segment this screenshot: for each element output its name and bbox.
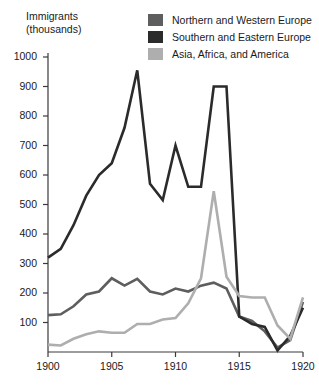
x-tick-label: 1915: [219, 360, 259, 372]
series-line-0: [48, 278, 303, 347]
y-tick-label: 300: [5, 257, 37, 269]
y-tick-label: 100: [5, 316, 37, 328]
x-tick-label: 1900: [28, 360, 68, 372]
y-tick-label: 800: [5, 109, 37, 121]
y-tick-label: 400: [5, 227, 37, 239]
y-tick-label: 900: [5, 80, 37, 92]
x-tick-label: 1905: [92, 360, 132, 372]
y-tick-label: 500: [5, 198, 37, 210]
y-tick-label: 700: [5, 139, 37, 151]
plot-area: [0, 0, 319, 387]
series-line-2: [48, 191, 303, 345]
x-tick-label: 1920: [283, 360, 319, 372]
x-tick-label: 1910: [156, 360, 196, 372]
y-tick-label: 1000: [5, 50, 37, 62]
series-line-1: [48, 70, 303, 350]
y-tick-label: 600: [5, 168, 37, 180]
y-tick-label: 200: [5, 286, 37, 298]
immigration-line-chart: Immigrants (thousands) Northern and West…: [0, 0, 319, 387]
